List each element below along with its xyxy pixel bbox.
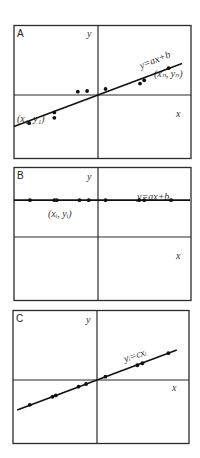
panel-a-data-point [76,90,80,94]
panel-b: B y x y=ax+b (xᵢ, yᵢ) [14,168,191,301]
panel-c-x-label: x [171,382,177,393]
panel-a-data-point [85,89,89,93]
panel-c-data-point [54,394,58,398]
panel-b-data-point [28,198,32,202]
panel-b-data-point [78,198,82,202]
panel-b-data-point [55,198,59,202]
panel-c: C y x yᵢ=cxᵢ [13,311,189,444]
panel-b-data-point [104,198,108,202]
regression-figure: A y x y=ax+b (xₙ, yₙ) (x₁, y₁) B y x y=a… [0,0,200,458]
panel-c-data-point [51,395,55,399]
panel-a-data-point [167,66,171,70]
panel-c-letter: C [16,313,23,324]
panel-a-x-label: x [175,108,181,119]
panel-b-letter: B [17,170,24,181]
panel-c-data-point [140,361,144,365]
panel-c-data-point [135,363,139,367]
panel-b-x-label: x [175,250,181,261]
panel-c-data-point [84,382,88,386]
panel-c-data-point [104,375,108,379]
panel-b-data-point [142,198,146,202]
panel-b-data-point [137,198,141,202]
panel-a-letter: A [17,28,24,39]
panel-c-frame [13,311,189,444]
panel-b-y-label: y [86,171,92,182]
panel-a-data-point [52,111,56,115]
panel-a-frame [14,26,191,159]
panel-b-frame [14,168,191,301]
panel-a-y-label: y [86,28,92,39]
panel-c-data-point [28,403,32,407]
panel-a-data-point [138,82,142,86]
panel-a-data-point [27,121,31,125]
panel-c-data-point [167,351,171,355]
panel-a: A y x y=ax+b (xₙ, yₙ) (x₁, y₁) [14,26,191,159]
panel-c-y-label: y [85,314,91,325]
panel-b-data-point [169,198,173,202]
panel-b-point-label: (xᵢ, yᵢ) [48,208,72,220]
panel-c-data-point [77,385,81,389]
panel-b-data-point [87,198,91,202]
panel-a-data-point [142,78,146,82]
panel-a-data-point [104,87,108,91]
panel-a-data-point [52,116,56,120]
